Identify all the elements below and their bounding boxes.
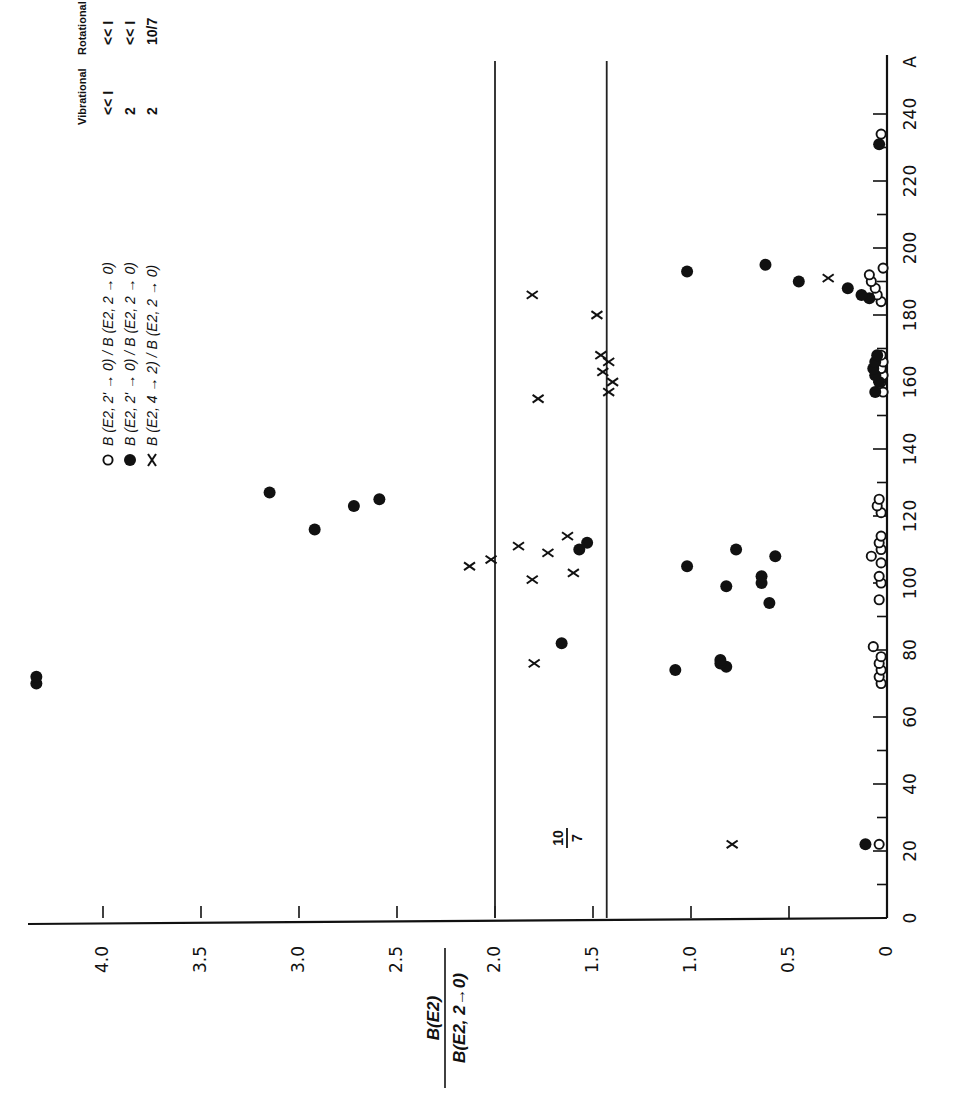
cross-point [727, 840, 738, 848]
open-circle-point [867, 552, 876, 561]
filled-circle-point [714, 654, 726, 666]
open-circle-point [877, 532, 886, 541]
a-tick-label: 240 [900, 98, 920, 130]
filled-circle-point [556, 637, 568, 649]
filled-circle-point [681, 265, 693, 277]
a-tick-label: 40 [900, 773, 920, 795]
filled-circle-icon [124, 454, 136, 466]
cross-point [603, 388, 614, 396]
a-tick-label: 160 [900, 366, 920, 398]
a-tick-label: 80 [900, 639, 920, 661]
legend-marker [103, 455, 112, 464]
filled-circle-point [681, 560, 693, 572]
filled-circle-point [348, 500, 360, 512]
filled-circle-point [756, 570, 768, 582]
ratio-tick-label: 0.5 [778, 946, 798, 973]
filled-circle-point [264, 487, 276, 499]
fraction-numerator: 10 [550, 830, 566, 846]
filled-circle-point [856, 289, 868, 301]
a-tick-label: 20 [900, 840, 920, 862]
open-circle-point [877, 558, 886, 567]
ratio-tick-label: 1.5 [582, 946, 602, 973]
legend-rotational-value: << I [122, 21, 138, 45]
axis-labels: B(E2)B(E2, 2→0) [424, 948, 469, 1088]
a-tick-label: 60 [900, 706, 920, 728]
cross-point [595, 351, 606, 359]
filled-circle-point [581, 537, 593, 549]
filled-circle-point [373, 493, 385, 505]
cross-point [591, 311, 602, 319]
legend-marker [124, 454, 136, 466]
a-tick-label: 180 [900, 299, 920, 331]
legend-header-rotational: Rotational [76, 1, 88, 55]
legend-header-vibrational: Vibrational [76, 68, 88, 125]
cross-point [513, 542, 524, 550]
ratio-axis-label: B(E2)B(E2, 2→0) [424, 948, 469, 1088]
ratio-tick-label: 2.0 [484, 946, 504, 973]
legend-vibrational-value: << I [100, 91, 116, 115]
filled-circle-point [730, 544, 742, 556]
a-tick-label: 220 [900, 165, 920, 197]
cross-point [527, 291, 538, 299]
open-circle-point [869, 642, 878, 651]
ratio-tick-label: 0 [876, 946, 896, 957]
legend-group: VibrationalRotationalB (E2, 2' → 0) / B … [76, 1, 160, 466]
filled-circle-point [720, 580, 732, 592]
filled-circle-point [669, 664, 681, 676]
ratio-axis-line [28, 918, 887, 924]
filled-circle-point [30, 671, 42, 683]
cross-point [529, 660, 540, 668]
a-tick-label: 100 [900, 567, 920, 599]
filled-circle-point [793, 276, 805, 288]
open-circle-point [875, 595, 884, 604]
filled-circle-point [842, 282, 854, 294]
cross-point [823, 274, 834, 282]
ratio-tick-label: 3.0 [288, 946, 308, 973]
cross-point [464, 562, 475, 570]
filled-circle-point [769, 550, 781, 562]
a-tick-label: 140 [900, 433, 920, 465]
open-circle-point [875, 495, 884, 504]
ratio-axis-label-numerator: B(E2) [424, 995, 443, 1040]
reference-lines: 107 [495, 61, 607, 918]
ratio-tick-label: 1.0 [680, 946, 700, 973]
ratio-tick-label: 2.5 [386, 946, 406, 973]
legend-marker [148, 454, 156, 466]
cross-point [568, 569, 579, 577]
open-circle-point [878, 264, 887, 273]
a-tick-label: 200 [900, 232, 920, 264]
cross-point [533, 395, 544, 403]
cross-point [607, 378, 618, 386]
filled-circle-point [859, 838, 871, 850]
legend-entry-label: B (E2, 4 → 2) / B (E2, 2 → 0) [144, 265, 160, 446]
open-circle-icon [103, 455, 112, 464]
filled-circle-point [759, 259, 771, 271]
legend-entry-label: B (E2, 2' → 0) / B (E2, 2 → 0) [100, 262, 116, 446]
cross-point [527, 576, 538, 584]
filled-circle-point [871, 349, 883, 361]
cross-point [562, 532, 573, 540]
cross-point [542, 549, 553, 557]
open-circle-point [865, 270, 874, 279]
ratio-axis-label-denominator: B(E2, 2→0) [450, 973, 469, 1063]
legend: VibrationalRotationalB (E2, 2' → 0) / B … [76, 1, 160, 466]
open-circle-point [877, 130, 886, 139]
a-tick-label: 120 [900, 500, 920, 532]
open-circle-point [875, 572, 884, 581]
legend-vibrational-value: 2 [144, 107, 160, 115]
a-tick-label: 0 [900, 913, 920, 924]
ten-over-seven-label: 107 [550, 828, 585, 848]
scatter-chart: 020406080100120140160180200220240A00.51.… [0, 0, 958, 1110]
data-points [30, 130, 887, 851]
filled-circle-point [873, 138, 885, 150]
ratio-tick-label: 4.0 [92, 946, 112, 973]
open-circle-point [877, 652, 886, 661]
legend-entry-label: B (E2, 2' → 0) / B (E2, 2 → 0) [122, 262, 138, 446]
axes: 020406080100120140160180200220240A00.51.… [28, 55, 920, 973]
open-circle-point [875, 840, 884, 849]
ratio-tick-label: 3.5 [190, 946, 210, 973]
legend-vibrational-value: 2 [122, 107, 138, 115]
filled-circle-point [309, 523, 321, 535]
filled-circle-point [763, 597, 775, 609]
fraction-denominator: 7 [569, 834, 585, 842]
